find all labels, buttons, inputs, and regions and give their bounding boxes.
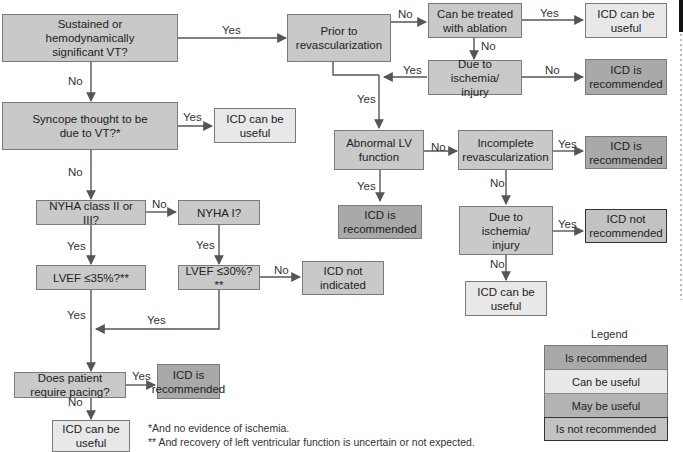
edge-label-ablation-no: No bbox=[481, 40, 496, 52]
node-lvef-35: LVEF ≤35%?** bbox=[36, 265, 146, 290]
node-prior-revascularization: Prior to revascularization bbox=[287, 14, 391, 62]
edge-label-ablation-yes: Yes bbox=[540, 7, 559, 19]
edge-label-ischemia1-no: No bbox=[545, 64, 560, 76]
legend-item-is-not-recommended: Is not recommended bbox=[544, 417, 668, 441]
edge-label-lv-no: No bbox=[431, 141, 446, 153]
edge-label-nyha23-yes: Yes bbox=[67, 240, 86, 252]
node-incomplete-recommended: ICD is recommended bbox=[585, 136, 667, 169]
edge-label-vt-yes: Yes bbox=[222, 24, 241, 36]
node-ischemia-2-useful: ICD can be useful bbox=[465, 281, 547, 316]
node-incomplete-revascularization: Incomplete revascularization bbox=[458, 130, 553, 170]
legend-item-is-recommended: Is recommended bbox=[545, 346, 667, 370]
edge-label-syncope-no: No bbox=[68, 166, 83, 178]
node-abnormal-lv: Abnormal LV function bbox=[334, 130, 424, 170]
page-edge-artifact bbox=[677, 0, 683, 451]
edge-label-ischemia2-yes: Yes bbox=[558, 218, 577, 230]
edge-label-nyha1-yes: Yes bbox=[196, 239, 215, 251]
edge-label-lvef35-yes: Yes bbox=[67, 309, 86, 321]
node-pacing-recommended: ICD is recommended bbox=[157, 364, 220, 399]
node-ischemia-2-not-recommended: ICD not recommended bbox=[585, 209, 667, 243]
node-lvef-30: LVEF ≤30%?** bbox=[178, 265, 260, 290]
legend-item-can-be-useful: Can be useful bbox=[545, 370, 667, 394]
legend-title: Legend bbox=[591, 328, 628, 340]
legend: Is recommended Can be useful May be usef… bbox=[544, 345, 668, 441]
node-ablation-useful: ICD can be useful bbox=[585, 3, 667, 38]
node-nyha-1: NYHA I? bbox=[178, 200, 260, 225]
edge-label-ischemia2-no: No bbox=[490, 258, 505, 270]
edge-label-ischemia1-yes: Yes bbox=[403, 64, 422, 76]
edge-label-lv-yes: Yes bbox=[357, 180, 376, 192]
node-ischemia-2: Due to ischemia/ injury bbox=[459, 206, 553, 255]
edge-label-pacing-yes: Yes bbox=[132, 370, 151, 382]
edge-label-nyha23-no: No bbox=[152, 198, 167, 210]
node-nyha-2-3: NYHA class II or III? bbox=[36, 200, 146, 225]
node-ablation: Can be treated with ablation bbox=[428, 3, 522, 38]
edge-label-merge-yes: Yes bbox=[357, 93, 376, 105]
node-ischemia-1-recommended: ICD is recommended bbox=[585, 59, 667, 95]
node-pacing: Does patient require pacing? bbox=[14, 372, 126, 398]
edge-label-lvef30-no: No bbox=[274, 264, 289, 276]
legend-item-may-be-useful: May be useful bbox=[545, 394, 667, 418]
node-not-indicated: ICD not indicated bbox=[302, 261, 384, 295]
edge-label-incomplete-yes: Yes bbox=[558, 138, 577, 150]
edge-label-lvef30-yes: Yes bbox=[147, 314, 166, 326]
node-sustained-vt: Sustained or hemodynamically significant… bbox=[2, 14, 178, 62]
node-ischemia-1: Due to ischemia/ injury bbox=[428, 60, 522, 95]
edge-label-vt-no: No bbox=[68, 75, 83, 87]
footnote-1: *And no evidence of ischemia. bbox=[148, 421, 289, 435]
edge-label-syncope-yes: Yes bbox=[183, 111, 202, 123]
node-pacing-useful: ICD can be useful bbox=[52, 420, 130, 452]
edge-label-prior-no: No bbox=[398, 8, 413, 20]
footnote-2: ** And recovery of left ventricular func… bbox=[148, 435, 475, 449]
node-abnormal-lv-recommended: ICD is recommended bbox=[338, 205, 422, 239]
edge-label-pacing-no: No bbox=[68, 396, 83, 408]
edge-label-incomplete-no: No bbox=[490, 177, 505, 189]
node-syncope-useful: ICD can be useful bbox=[214, 108, 296, 143]
node-syncope: Syncope thought to be due to VT?* bbox=[2, 102, 178, 150]
